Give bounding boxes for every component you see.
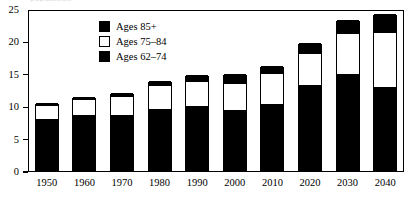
bar-segment[interactable] (374, 32, 396, 86)
y-axis-tick-label: 25 (9, 3, 20, 16)
bar-segment[interactable] (36, 105, 58, 119)
x-axis-tick-label: 2010 (254, 176, 292, 189)
bar-segment[interactable] (299, 53, 321, 85)
bar-segment[interactable] (73, 115, 95, 171)
bar-segment[interactable] (337, 20, 359, 34)
x-axis-tick-label: 2000 (216, 176, 254, 189)
legend-item[interactable]: Ages 85+ (99, 19, 204, 34)
legend-item[interactable]: Ages 62–74 (99, 49, 204, 64)
bar-segment[interactable] (111, 115, 133, 171)
x-axis-tick-label: 1990 (178, 176, 216, 189)
x-axis-tick-label: 2040 (366, 176, 404, 189)
legend-item-label: Ages 85+ (116, 20, 157, 33)
bar-segment[interactable] (186, 106, 208, 171)
bar-segment[interactable] (374, 14, 396, 32)
stacked-bar[interactable] (336, 21, 360, 172)
bar-segment[interactable] (186, 81, 208, 106)
stacked-bar[interactable] (260, 67, 284, 172)
chart-legend: Ages 85+Ages 75–84Ages 62–74 (99, 19, 204, 64)
bar-segment[interactable] (149, 81, 171, 86)
bar-segment[interactable] (149, 85, 171, 109)
stacked-bar[interactable] (148, 82, 172, 172)
bar-segment[interactable] (374, 87, 396, 171)
stacked-bar[interactable] (185, 76, 209, 172)
bar-segment[interactable] (299, 43, 321, 53)
chart-title-remnant: population (30, 0, 120, 2)
bars-layer (28, 10, 404, 172)
x-axis-tick-label: 1950 (28, 176, 66, 189)
stacked-bar[interactable] (373, 15, 397, 172)
legend-item-label: Ages 75–84 (116, 35, 166, 48)
bar-segment[interactable] (111, 96, 133, 114)
bar-segment[interactable] (111, 93, 133, 96)
bar-segment[interactable] (224, 84, 246, 111)
bar-segment[interactable] (337, 74, 359, 171)
stacked-bar[interactable] (110, 94, 134, 172)
bar-segment[interactable] (299, 85, 321, 171)
x-axis: 1950196019701980199020002010202020302040 (28, 174, 404, 194)
y-axis-tick-label: 20 (9, 35, 20, 48)
bar-segment[interactable] (261, 74, 283, 104)
y-axis-tick-label: 0 (14, 165, 19, 178)
bar-segment[interactable] (261, 104, 283, 171)
bar-segment[interactable] (36, 103, 58, 105)
x-axis-tick-label: 1970 (103, 176, 141, 189)
bar-segment[interactable] (186, 75, 208, 81)
stacked-bar[interactable] (35, 104, 59, 172)
legend-swatch-icon (99, 36, 110, 47)
legend-item-label: Ages 62–74 (116, 50, 166, 63)
bar-segment[interactable] (73, 100, 95, 116)
bar-segment[interactable] (261, 66, 283, 74)
y-axis-tick-label: 10 (9, 100, 20, 113)
y-axis-tick-label: 15 (9, 68, 20, 81)
stacked-bar[interactable] (298, 44, 322, 172)
bar-segment[interactable] (149, 109, 171, 171)
bar-segment[interactable] (337, 34, 359, 74)
stacked-bar[interactable] (223, 75, 247, 172)
stacked-bar[interactable] (72, 98, 96, 172)
y-axis: 0510152025 (0, 0, 28, 206)
bar-segment[interactable] (36, 119, 58, 171)
x-axis-tick-label: 1980 (141, 176, 179, 189)
x-axis-tick-label: 2020 (291, 176, 329, 189)
legend-swatch-icon (99, 21, 110, 32)
legend-swatch-icon (99, 51, 110, 62)
bar-segment[interactable] (73, 97, 95, 100)
y-axis-tick-label: 5 (14, 133, 19, 146)
stacked-bar-chart: population 0510152025 195019601970198019… (0, 0, 409, 206)
x-axis-tick-label: 1960 (66, 176, 104, 189)
bar-segment[interactable] (224, 110, 246, 171)
bar-segment[interactable] (224, 74, 246, 83)
legend-item[interactable]: Ages 75–84 (99, 34, 204, 49)
x-axis-tick-label: 2030 (329, 176, 367, 189)
